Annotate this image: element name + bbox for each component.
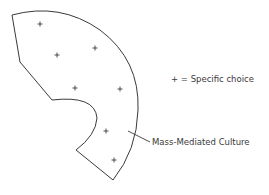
mass-mediated-culture-region [12,11,138,180]
plus-icon [93,46,98,51]
plus-icon [112,158,117,163]
plus-icon [38,22,43,27]
plus-icon [55,53,60,58]
legend: + = Specific choice [171,74,254,84]
diagram-canvas [0,0,269,195]
plus-icon [104,129,109,134]
region-label: Mass-Mediated Culture [152,137,250,147]
plus-icon [118,87,123,92]
specific-choice-markers [38,22,123,163]
label-leader-line [128,131,150,142]
plus-icon [73,86,78,91]
